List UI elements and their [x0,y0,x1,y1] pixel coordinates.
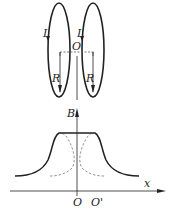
right-radius-arrowhead-icon [91,85,95,93]
center-label: O [72,40,81,53]
left-radius-arrowhead-icon [58,85,62,93]
helmholtz-diagram: I I O R R B x O O' [0,0,171,210]
second-center-label: O' [91,196,103,209]
b-axis-label: B [66,107,75,120]
origin-label: O [73,196,82,209]
field-graph: B x O O' [10,107,166,209]
coils-group: I I O R R [42,3,104,100]
x-axis-arrowhead-icon [157,189,166,193]
x-axis-label: x [144,177,151,190]
b-axis-arrowhead-icon [75,108,79,117]
right-current-label: I [76,27,82,40]
right-radius-label: R [85,72,94,85]
left-radius-label: R [51,72,60,85]
left-current-label: I [42,27,48,40]
